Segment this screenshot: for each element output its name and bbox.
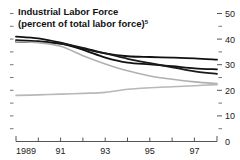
x-label-93: 93 — [100, 146, 110, 156]
chart-title: Industrial Labor Force — [18, 6, 118, 17]
chart-container: Industrial Labor Force (percent of total… — [0, 0, 240, 160]
y-label-0: 0 — [225, 137, 230, 147]
y-label-20: 20 — [225, 86, 235, 96]
y-label-30: 30 — [225, 60, 235, 70]
y-label-50: 50 — [225, 9, 235, 19]
y-label-40: 40 — [225, 35, 235, 45]
chart-subtitle: (percent of total labor force)5 — [18, 18, 149, 29]
y-label-10: 10 — [225, 111, 235, 121]
x-label-97: 97 — [189, 146, 199, 156]
x-label-1989: 1989 — [16, 146, 36, 156]
line-chart: Industrial Labor Force (percent of total… — [0, 0, 240, 160]
x-label-91: 91 — [56, 146, 66, 156]
x-label-95: 95 — [145, 146, 155, 156]
